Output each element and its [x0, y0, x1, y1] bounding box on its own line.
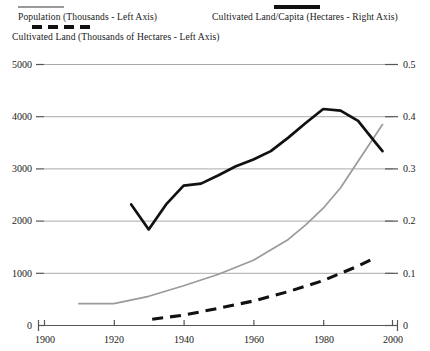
x-tick-label-1940: 1940	[161, 334, 207, 345]
y-right-tick-label-0.1: 0.1	[403, 268, 430, 279]
y-right-tick-label-0: 0	[403, 320, 430, 331]
series-line-population	[79, 125, 383, 304]
y-left-ticks	[36, 65, 44, 332]
x-tick-label-1960: 1960	[231, 334, 277, 345]
y-left-tick-label-1000: 1000	[0, 268, 32, 279]
x-axis-ticks	[45, 320, 393, 326]
y-right-ticks	[385, 65, 398, 332]
gridlines	[44, 65, 393, 274]
x-tick-label-1920: 1920	[91, 334, 137, 345]
y-left-tick-label-0: 0	[0, 320, 32, 331]
y-left-tick-label-4000: 4000	[0, 111, 32, 122]
x-tick-label-2000: 2000	[370, 334, 416, 345]
y-left-tick-label-2000: 2000	[0, 215, 32, 226]
y-right-tick-label-0.2: 0.2	[403, 215, 430, 226]
x-tick-label-1980: 1980	[301, 334, 347, 345]
y-left-tick-label-3000: 3000	[0, 163, 32, 174]
series-line-cultivated-land	[152, 258, 375, 320]
x-tick-label-1900: 1900	[22, 334, 68, 345]
chart-root: Population (Thousands - Left Axis) Culti…	[0, 0, 430, 351]
y-right-tick-label-0.3: 0.3	[403, 163, 430, 174]
y-left-tick-label-5000: 5000	[0, 59, 32, 70]
y-right-tick-label-0.5: 0.5	[403, 59, 430, 70]
plot-area	[0, 0, 430, 351]
y-right-tick-label-0.4: 0.4	[403, 111, 430, 122]
